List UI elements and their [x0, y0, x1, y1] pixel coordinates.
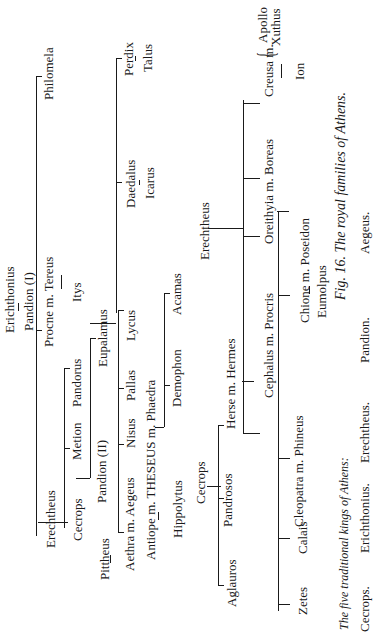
line-theseus-hippolytus: [158, 512, 159, 520]
person-pallas: Pallas: [124, 370, 137, 401]
line-oreithyia-tick: [243, 236, 260, 237]
person-erechtheus-2: Erechtheus: [198, 202, 211, 260]
line-erechtheus2-stem: [243, 100, 244, 433]
line-daedalus-tick: [116, 182, 122, 183]
line-erichthonius-pandion: [18, 303, 19, 311]
person-cephalus-procris: Cephalus m. Procris: [262, 293, 275, 398]
person-pandrosos: Pandrosos: [221, 474, 234, 527]
line-cecrops1-tick: [64, 522, 65, 528]
person-theseus-phaedra: Antiope m. THESEUS m. Phaedra: [144, 380, 157, 560]
person-pandorus: Pandorus: [70, 359, 83, 407]
person-herse-hermes: Herse m. Hermes: [224, 338, 237, 429]
person-itys: Itys: [70, 283, 83, 303]
person-perdix: Perdix: [122, 42, 135, 76]
person-erichthonius: Erichthonius: [3, 267, 16, 333]
king-cecrops: Cecrops.: [358, 586, 371, 632]
person-eupalamus: Eupalamus: [96, 309, 109, 367]
line-procris-tick: [243, 433, 260, 434]
person-cecrops-1: Cecrops: [71, 498, 84, 541]
line-creusa-tick: [243, 103, 260, 104]
person-aglauros: Aglauros: [225, 559, 238, 607]
line-hermes-cephalus: [242, 381, 254, 382]
genealogy-diagram: PhilomelaPerdixTalusDaedalusIcarusEricht…: [0, 0, 382, 642]
person-aethra-aegeus: Aethra m. Aegeus: [123, 477, 136, 571]
line-calais-tick: [278, 538, 290, 539]
person-calais: Calais: [296, 522, 309, 555]
line-lycus-stem: [118, 310, 119, 532]
line-chione-tick: [278, 295, 290, 296]
line-cleopatra-tick: [278, 458, 290, 459]
line-boreas-tick: [243, 178, 260, 179]
person-cleopatra-phineus: Cleopatra m. Phineus: [292, 415, 305, 527]
line-pandion2-stem: [90, 338, 91, 478]
line-acamas-stem: [164, 293, 165, 427]
line-philomela-stem: [36, 76, 37, 536]
person-talus: Talus: [141, 44, 154, 72]
king-erichthonius: Erichthonius.: [358, 483, 371, 553]
person-cecrops-2: Cecrops: [194, 461, 207, 504]
person-oreithyia-boreas: Oreithyia m. Boreas: [262, 139, 275, 244]
person-philomela: Philomela: [42, 47, 55, 100]
person-erechtheus-1: Erechtheus: [44, 490, 57, 548]
brace-icon: {: [253, 52, 279, 58]
person-pandion-2: Pandion (II): [95, 440, 108, 503]
person-daedalus: Daedalus: [124, 160, 137, 208]
person-pittheus: Pittheus: [98, 538, 111, 580]
person-acamas: Acamas: [170, 273, 183, 315]
person-eumolpus: Eumolpus: [315, 265, 328, 318]
person-pandion-1: Pandion (I): [22, 272, 35, 331]
person-icarus: Icarus: [143, 167, 156, 199]
kings-heading: The five traditional kings of Athens:: [338, 457, 351, 630]
person-lycus: Lycus: [124, 310, 137, 341]
line-erechtheus2-branch: [208, 228, 244, 229]
line-metion-pandion2: [76, 478, 90, 479]
king-pandion: Pandion.: [358, 317, 371, 363]
king-aegeus: Aegeus.: [358, 212, 371, 254]
person-procne-tereus: Procne m. Tereus: [42, 257, 55, 347]
line-daedalus-icarus: [139, 180, 140, 185]
person-zetes: Zetes: [296, 587, 309, 615]
line-tereus-itys: [61, 275, 62, 289]
person-xuthus: Xuthus: [269, 8, 282, 46]
line-perdix-stem: [116, 58, 117, 313]
person-demophon: Demophon: [170, 349, 183, 407]
figure-caption: Fig. 16. The royal families of Athens.: [334, 92, 347, 300]
king-erechtheus: Erechtheus.: [358, 402, 371, 463]
person-metion: Metion: [70, 422, 83, 460]
person-ion: Ion: [293, 63, 306, 80]
person-hippolytus: Hippolytus: [171, 480, 184, 538]
line-oreithyia-children-stem: [278, 211, 279, 611]
person-chione-poseidon: Chione m. Poseidon: [298, 218, 311, 323]
line-creusa-ion: [281, 64, 282, 78]
line-zetes-tick: [278, 604, 290, 605]
person-nisus: Nisus: [124, 418, 137, 448]
line-cecrops2-stem: [218, 425, 219, 585]
